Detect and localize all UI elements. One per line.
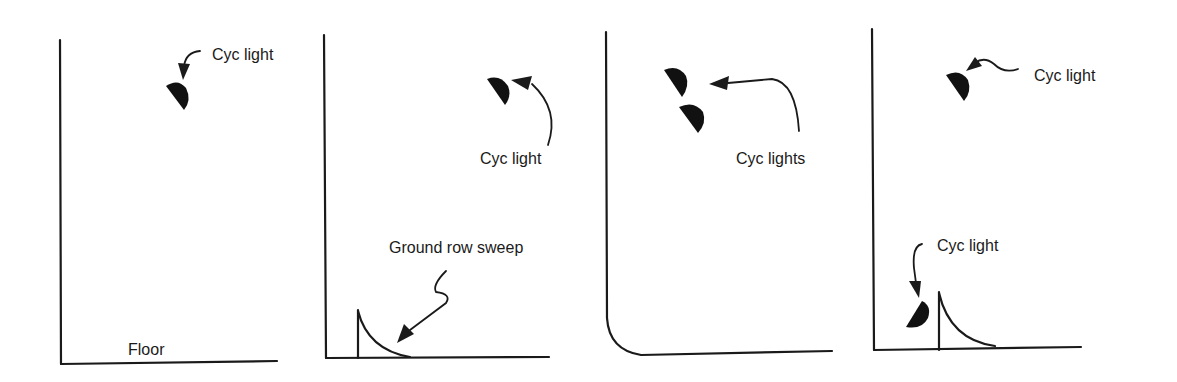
- cyc-wall-line: [324, 35, 326, 358]
- squiggle-arrow-icon: [410, 271, 448, 330]
- cyc-wall-line: [872, 29, 874, 350]
- cyc-light-icon: [679, 104, 704, 133]
- cyc-light-label-top: Cyc light: [1034, 67, 1096, 84]
- arrowhead-icon: [909, 281, 921, 298]
- floor-label: Floor: [128, 341, 165, 358]
- cyc-light-icon: [946, 72, 969, 101]
- cyc-light-icon: [487, 78, 509, 105]
- squiggle-arrow-icon: [975, 60, 1018, 71]
- floor-cyc-light-icon: [906, 301, 929, 328]
- panel-4: Cyc light Cyc light: [872, 29, 1096, 350]
- pointer-arrow-icon: [914, 244, 922, 283]
- ground-row-curve: [939, 293, 995, 346]
- cyc-lights-label: Cyc lights: [736, 150, 805, 167]
- floor-line: [61, 361, 277, 364]
- cyc-light-label: Cyc light: [212, 46, 274, 63]
- arrowhead-icon: [178, 63, 190, 80]
- arrowhead-icon: [511, 76, 532, 90]
- cyc-light-icon: [664, 68, 687, 97]
- panel-2: Cyc light Ground row sweep: [324, 35, 552, 358]
- cyc-light-label: Cyc light: [480, 150, 542, 167]
- arrowhead-icon: [397, 324, 414, 343]
- panel-3: Cyc lights: [606, 32, 832, 355]
- cyc-light-label-bottom: Cyc light: [937, 237, 999, 254]
- floor-line: [326, 357, 549, 358]
- floor-line: [874, 347, 1081, 350]
- ground-row-sweep-label: Ground row sweep: [389, 239, 523, 256]
- pointer-arrow-icon: [728, 79, 799, 131]
- cyc-lighting-diagram: Floor Cyc light Cyc light Ground row swe…: [0, 0, 1177, 382]
- cyc-wall-line: [60, 40, 61, 364]
- pointer-arrow-icon: [532, 84, 552, 145]
- panel-1: Floor Cyc light: [60, 40, 277, 364]
- cyc-light-icon: [166, 82, 189, 110]
- arrowhead-icon: [709, 76, 729, 90]
- arrowhead-icon: [966, 57, 982, 71]
